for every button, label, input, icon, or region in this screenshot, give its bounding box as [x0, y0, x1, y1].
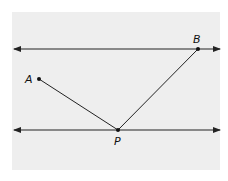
- label-b: B: [193, 33, 201, 46]
- geometry-diagram: A B P: [0, 0, 228, 181]
- point-a: [37, 77, 41, 81]
- label-p: P: [114, 135, 121, 148]
- point-p: [116, 128, 120, 132]
- point-b: [196, 47, 200, 51]
- label-a: A: [24, 73, 33, 86]
